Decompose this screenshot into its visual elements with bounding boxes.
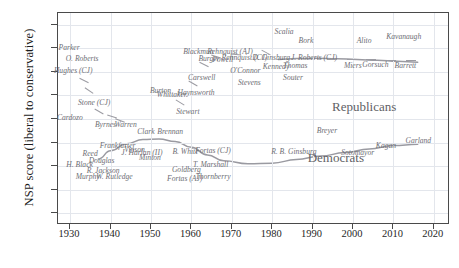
nominee-marker: [327, 59, 337, 60]
y-axis-tick-mark: [51, 94, 57, 95]
nominee-label: Scalia: [275, 26, 294, 35]
nominee-label: Haynsworth: [177, 88, 214, 97]
x-axis-tick-label: 2020: [422, 228, 443, 239]
gridline-horizontal: [58, 190, 448, 191]
gridline-vertical: [191, 13, 192, 223]
y-axis-tick-mark: [51, 189, 57, 190]
nominee-marker: [406, 60, 416, 61]
nominee-label: Carswell: [188, 72, 215, 81]
group-annotation: Republicans: [332, 99, 396, 115]
gridline-vertical: [151, 13, 152, 223]
x-axis-tick-label: 2000: [342, 228, 363, 239]
x-axis-tick-mark: [231, 224, 232, 229]
nominee-label: Kagan: [376, 141, 396, 150]
nominee-label: Bork: [299, 36, 314, 45]
nominee-label: Minton: [139, 152, 161, 161]
x-axis-tick-mark: [110, 224, 111, 229]
x-axis-tick-mark: [433, 224, 434, 229]
nominee-label: Thomas: [283, 61, 307, 70]
nominee-label: Alito: [357, 36, 372, 45]
x-axis-tick-label: 1940: [99, 228, 120, 239]
nominee-label: Parker: [59, 43, 80, 52]
x-axis-tick-mark: [190, 224, 191, 229]
x-axis-tick-label: 1990: [301, 228, 322, 239]
x-axis-tick-label: 1960: [180, 228, 201, 239]
y-axis-tick-mark: [51, 24, 57, 25]
x-axis-tick-label: 1980: [261, 228, 282, 239]
y-axis-tick-mark: [51, 165, 57, 166]
x-axis-tick-label: 1930: [59, 228, 80, 239]
nominee-label: Douglas: [89, 156, 115, 165]
gridline-horizontal: [58, 95, 448, 96]
nominee-label: Clark: [137, 127, 154, 136]
gridline-vertical: [434, 13, 435, 223]
nominee-label: Breyer: [317, 125, 337, 134]
gridline-horizontal: [58, 213, 448, 214]
y-axis-tick-mark: [51, 142, 57, 143]
nominee-label: Fortas (CJ): [195, 145, 231, 154]
gridline-horizontal: [58, 25, 448, 26]
nominee-label: W. Rutledge: [96, 171, 132, 180]
x-axis-tick-mark: [69, 224, 70, 229]
nominee-label: Kavanaugh: [386, 31, 421, 40]
nominee-label: Gorsuch: [362, 59, 388, 68]
gridline-vertical: [111, 13, 112, 223]
nominee-label: Thornberry: [195, 171, 230, 180]
nsp-score-scatter-chart: NSP score (liberal to conservative) 0.80…: [0, 0, 459, 268]
x-axis-tick-label: 1950: [139, 228, 160, 239]
nominee-marker: [347, 59, 357, 60]
gridline-horizontal: [58, 48, 448, 49]
nominee-label: Miers: [344, 61, 362, 70]
gridline-vertical: [353, 13, 354, 223]
gridline-vertical: [272, 13, 273, 223]
nominee-label: Brennan: [157, 127, 183, 136]
nominee-marker: [366, 59, 376, 60]
gridline-vertical: [393, 13, 394, 223]
x-axis-tick-mark: [352, 224, 353, 229]
x-axis-tick-mark: [271, 224, 272, 229]
nominee-label: Byrnes: [95, 119, 116, 128]
nominee-label: Souter: [283, 72, 303, 81]
gridline-vertical: [232, 13, 233, 223]
nominee-label: Stevens: [238, 77, 261, 86]
y-axis-tick-mark: [51, 47, 57, 48]
nominee-label: O. Roberts: [66, 53, 99, 62]
nominee-label: Barrett: [395, 61, 417, 70]
x-axis-tick-mark: [312, 224, 313, 229]
y-axis-title: NSP score (liberal to conservative): [22, 3, 37, 233]
y-axis-tick-mark: [51, 212, 57, 213]
nominee-marker: [386, 60, 396, 61]
nominee-label: T. Marshall: [193, 159, 228, 168]
nominee-label: Stone (CJ): [78, 97, 110, 106]
nominee-label: Garland: [405, 136, 431, 145]
nominee-label: O'Connor: [230, 65, 260, 74]
x-axis-tick-mark: [150, 224, 151, 229]
nominee-label: Stewart: [176, 106, 199, 115]
group-annotation: Democrats: [308, 150, 364, 166]
x-axis-tick-label: 2010: [382, 228, 403, 239]
x-axis-tick-label: 1970: [220, 228, 241, 239]
x-axis-tick-mark: [392, 224, 393, 229]
nominee-label: Hughes (CJ): [54, 65, 93, 74]
nominee-label: Cardozo: [57, 112, 83, 121]
